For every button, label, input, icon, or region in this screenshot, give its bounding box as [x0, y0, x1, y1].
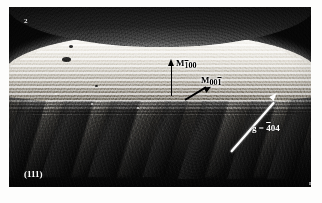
defect-spot — [95, 85, 98, 87]
g-equals: = — [259, 123, 264, 133]
micrograph-plate: 2 (111) n M100 M001 g = 404 — [9, 7, 311, 187]
m2-subscript-bar: 1 — [218, 78, 222, 87]
crystal-plane-label: (111) — [24, 170, 43, 179]
martensite-variant-2-arrow-icon — [185, 85, 211, 103]
g-symbol: g — [252, 123, 257, 133]
m1-subscript-rest: 00 — [189, 61, 197, 70]
figure-corner-number: 2 — [24, 18, 28, 25]
m2-symbol: M — [201, 75, 210, 85]
martensite-variant-1-arrow-icon — [170, 59, 173, 96]
m2-subscript-rest: 00 — [210, 78, 218, 87]
martensite-variant-1-label: M100 — [176, 59, 197, 70]
defect-spot — [62, 57, 71, 62]
corner-mark: n — [309, 180, 311, 187]
g-index-rest: 04 — [271, 123, 280, 133]
bright-speck — [91, 103, 93, 105]
bright-speck — [137, 107, 139, 109]
m1-symbol: M — [176, 58, 185, 68]
diffraction-vector-label: g = 404 — [252, 124, 280, 133]
defect-spot — [69, 45, 73, 48]
figure-container: 2 (111) n M100 M001 g = 404 — [0, 0, 322, 203]
bright-speck — [55, 93, 57, 95]
martensite-variant-2-label: M001 — [201, 76, 222, 87]
vacuum-band — [9, 7, 311, 47]
